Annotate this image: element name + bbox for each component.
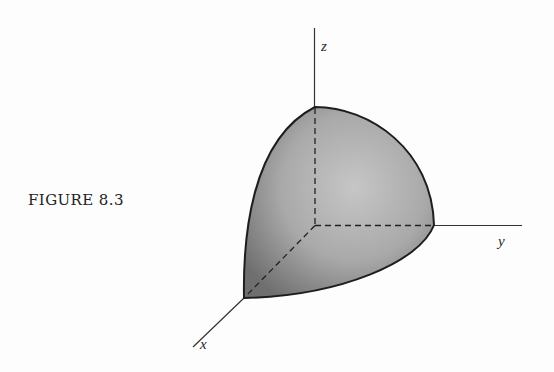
figure-page: FIGURE 8.3 z y x (0, 0, 554, 372)
z-axis-label: z (320, 38, 327, 54)
octant-sphere-diagram: z y x (0, 0, 554, 372)
y-axis-label: y (496, 233, 505, 249)
x-axis-label: x (199, 336, 207, 352)
